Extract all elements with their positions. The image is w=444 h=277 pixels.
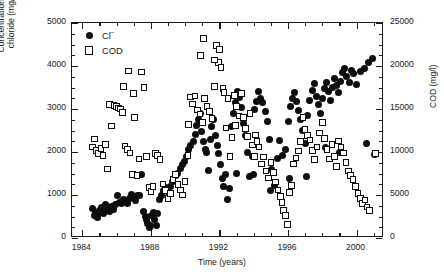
data-point-cod <box>307 137 314 144</box>
y-axis-right-tick-label: 10000 <box>390 146 414 155</box>
data-point-chloride <box>287 103 294 110</box>
data-point-cod <box>131 114 138 121</box>
data-point-chloride <box>291 89 298 96</box>
data-point-cod <box>211 83 218 90</box>
data-point-cod <box>182 178 189 185</box>
data-point-cod <box>223 125 230 132</box>
legend: Cl− COD <box>82 28 123 58</box>
data-point-cod <box>136 156 143 163</box>
data-point-cod <box>272 179 279 186</box>
data-point-cod <box>100 152 107 159</box>
data-point-cod <box>197 52 204 59</box>
data-point-cod <box>295 148 302 155</box>
data-point-cod <box>270 169 277 176</box>
data-point-cod <box>134 172 141 179</box>
y-axis-left-title: Concentration of chloride (mg/l) <box>0 0 16 96</box>
data-point-cod <box>157 156 164 163</box>
data-point-cod <box>231 92 238 99</box>
data-point-cod <box>333 163 340 170</box>
y-axis-left-tick-label: 4000 <box>24 60 66 69</box>
data-point-cod <box>199 119 206 126</box>
data-point-cod <box>314 144 321 151</box>
y-axis-right-tick-label: 5000 <box>390 189 409 198</box>
data-point-cod <box>227 153 234 160</box>
data-point-cod <box>127 150 134 157</box>
data-point-cod <box>242 125 249 132</box>
data-point-cod <box>143 153 150 160</box>
y-axis-right-tick-label: 15000 <box>390 103 414 112</box>
data-point-chloride <box>217 161 224 168</box>
data-point-chloride <box>214 142 221 149</box>
data-point-chloride <box>205 167 212 174</box>
y-axis-right-tick-label: 0 <box>390 232 395 241</box>
data-point-cod <box>119 109 126 116</box>
data-point-chloride <box>285 118 292 125</box>
x-axis-tick-label: 1996 <box>267 243 307 252</box>
data-point-cod <box>91 136 98 143</box>
data-point-chloride <box>233 170 240 177</box>
data-point-cod <box>331 153 338 160</box>
chart-figure: Concentration of chloride (mg/l) COD (mg… <box>0 0 444 277</box>
data-point-chloride <box>361 65 368 72</box>
data-point-cod <box>288 182 295 189</box>
legend-item-chloride: Cl− <box>82 28 123 43</box>
data-point-cod <box>366 207 373 214</box>
y-axis-left-tick-label: 2000 <box>24 146 66 155</box>
data-point-chloride <box>264 118 271 125</box>
legend-label-cod: COD <box>102 45 123 56</box>
data-point-chloride <box>315 101 322 108</box>
data-point-cod <box>350 176 357 183</box>
data-point-chloride <box>327 97 334 104</box>
data-point-chloride <box>276 137 283 144</box>
data-point-chloride <box>346 79 353 86</box>
data-point-cod <box>352 183 359 190</box>
data-point-cod <box>319 119 326 126</box>
legend-item-cod: COD <box>82 43 123 58</box>
data-point-chloride <box>222 171 229 178</box>
data-point-cod <box>211 57 218 64</box>
data-point-cod <box>372 150 379 157</box>
data-point-chloride <box>311 80 318 87</box>
data-point-chloride <box>250 171 257 178</box>
data-point-cod <box>282 212 289 219</box>
data-point-chloride <box>226 185 233 192</box>
data-point-cod <box>160 181 167 188</box>
data-point-cod <box>284 221 291 228</box>
data-point-chloride <box>295 107 302 114</box>
data-point-cod <box>311 156 318 163</box>
data-point-chloride <box>266 136 273 143</box>
y2-tick-major <box>376 238 382 239</box>
data-point-cod <box>263 168 270 175</box>
data-point-chloride <box>303 173 310 180</box>
data-point-cod <box>104 166 111 173</box>
x-axis-tick-label: 2000 <box>336 243 376 252</box>
data-point-cod <box>258 161 265 168</box>
open-square-icon <box>82 46 96 54</box>
y-axis-left-tick-label: 5000 <box>24 17 66 26</box>
x-axis-tick-label: 1992 <box>198 243 238 252</box>
data-point-cod <box>238 90 245 97</box>
legend-label-chloride: Cl− <box>102 30 115 41</box>
data-point-chloride <box>363 140 370 147</box>
data-point-cod <box>256 144 263 151</box>
data-point-cod <box>201 95 208 102</box>
data-point-chloride <box>353 81 360 88</box>
data-point-cod <box>130 90 137 97</box>
data-point-chloride <box>286 175 293 182</box>
data-point-cod <box>216 46 223 53</box>
data-point-cod <box>251 153 258 160</box>
data-point-cod <box>120 83 127 90</box>
data-point-chloride <box>293 98 300 105</box>
y-axis-left-tick-label: 0 <box>24 232 66 241</box>
data-point-cod <box>260 154 267 161</box>
data-point-cod <box>200 35 207 42</box>
data-point-cod <box>286 189 293 196</box>
data-point-cod <box>141 84 148 91</box>
data-point-cod <box>102 141 109 148</box>
data-point-cod <box>293 155 300 162</box>
data-point-cod <box>247 110 254 117</box>
data-point-cod <box>138 69 145 76</box>
data-point-cod <box>185 121 192 128</box>
y-tick-major <box>72 238 78 239</box>
data-point-chloride <box>224 196 231 203</box>
